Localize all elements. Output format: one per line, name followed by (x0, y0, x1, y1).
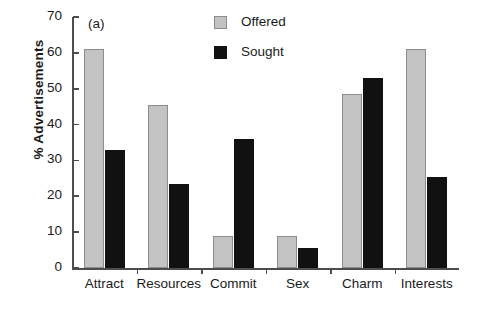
bar-attract-sought (105, 150, 125, 268)
bar-charm-offered (342, 94, 362, 268)
y-tick-label: 10 (28, 223, 62, 238)
y-tick-label: 50 (28, 80, 62, 95)
y-tick-label: 70 (28, 8, 62, 23)
y-tick-mark (73, 195, 79, 197)
y-tick-label: 20 (28, 187, 62, 202)
bar-interests-sought (427, 177, 447, 268)
y-tick-mark (73, 52, 79, 54)
category-label-interests: Interests (395, 276, 460, 291)
category-label-commit: Commit (201, 276, 266, 291)
y-axis-line (72, 17, 74, 268)
y-tick-label: 0 (28, 259, 62, 274)
x-tick-mark (266, 268, 268, 274)
category-label-sex: Sex (266, 276, 331, 291)
bar-commit-sought (234, 139, 254, 268)
x-tick-mark (395, 268, 397, 274)
y-tick-mark (73, 267, 79, 269)
x-tick-mark (201, 268, 203, 274)
y-tick-mark (73, 124, 79, 126)
y-tick-mark (73, 231, 79, 233)
bar-interests-offered (406, 49, 426, 268)
plot-area: 010203040506070 AttractResourcesCommitSe… (72, 17, 459, 268)
bar-sex-offered (277, 236, 297, 268)
bar-attract-offered (84, 49, 104, 268)
bar-resources-offered (148, 105, 168, 268)
category-label-attract: Attract (72, 276, 137, 291)
y-tick-mark (73, 16, 79, 18)
y-tick-label: 40 (28, 116, 62, 131)
bar-commit-offered (213, 236, 233, 268)
bar-charm-sought (363, 78, 383, 268)
y-tick-mark (73, 88, 79, 90)
y-tick-label: 30 (28, 151, 62, 166)
x-tick-mark (330, 268, 332, 274)
y-tick-label: 60 (28, 44, 62, 59)
x-tick-mark (137, 268, 139, 274)
y-tick-mark (73, 160, 79, 162)
bar-sex-sought (298, 248, 318, 268)
bar-resources-sought (169, 184, 189, 268)
category-label-resources: Resources (137, 276, 202, 291)
bar-chart-figure: % Advertisements (a) Offered Sought 0102… (0, 0, 480, 315)
category-label-charm: Charm (330, 276, 395, 291)
